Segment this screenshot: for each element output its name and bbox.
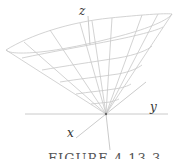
y-axis-label: y: [149, 100, 157, 114]
vertex-point: [105, 113, 107, 115]
z-axis-label: z: [78, 4, 86, 18]
ring-5: [91, 99, 119, 104]
generator-7: [106, 14, 158, 114]
x-axis-label: x: [67, 126, 74, 140]
generator-left: [6, 50, 106, 114]
z-axis-upper: [88, 16, 90, 45]
generator-right: [106, 14, 172, 114]
cone-diagram: z y x FIGURE 4.13.3: [0, 0, 177, 159]
figure-caption: FIGURE 4.13.3: [48, 151, 161, 159]
z-axis: [106, 114, 110, 150]
generator-3: [80, 23, 106, 114]
x-axis: [76, 114, 106, 138]
generator-4: [92, 21, 106, 114]
